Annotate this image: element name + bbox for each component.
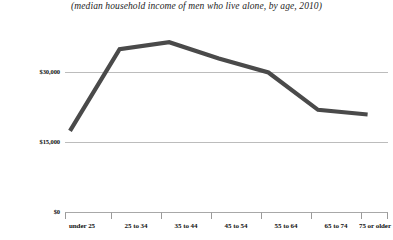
x-tick-label-55-to-64: 55 to 64 — [262, 222, 310, 230]
y-tick-label-30000: $30,000 — [16, 68, 60, 75]
y-tick-label-15000: $15,000 — [16, 138, 60, 145]
chart-container: (median household income of men who live… — [0, 0, 393, 240]
data-series-line — [70, 42, 368, 131]
x-axis-ticks — [66, 213, 388, 220]
gridlines — [65, 73, 388, 213]
x-tick-label-75-or-older: 75 or older — [348, 222, 393, 230]
x-tick-label-45-to-54: 45 to 54 — [212, 222, 260, 230]
chart-plot-area — [0, 0, 393, 240]
x-tick-label-25-to-34: 25 to 34 — [112, 222, 160, 230]
y-tick-label-0: $0 — [16, 208, 60, 215]
x-tick-label-under-25: under 25 — [58, 222, 106, 230]
x-tick-label-35-to-44: 35 to 44 — [162, 222, 210, 230]
